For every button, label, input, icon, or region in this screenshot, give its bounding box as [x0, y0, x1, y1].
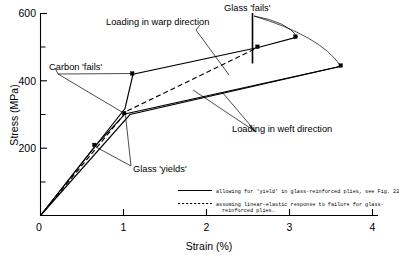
annotation-carbon-fails: Carbon 'fails' — [49, 62, 102, 72]
x-axis — [41, 209, 379, 216]
leader-loading-warp — [196, 25, 229, 75]
legend-label-solid: allowing for 'yield' in glass-reinforced… — [216, 189, 399, 195]
x-tick-label-4: 4 — [370, 221, 376, 233]
leader-glass-fails — [253, 13, 341, 65]
x-tick-label-1: 1 — [121, 221, 127, 233]
y-tick-label-200: 200 — [18, 142, 36, 154]
annotation-glass-yields: Glass 'yields' — [133, 164, 187, 174]
x-tick-label-2: 2 — [204, 221, 210, 233]
x-tick-label-3: 3 — [287, 221, 293, 233]
y-axis-title: Stress (MPa) — [8, 84, 20, 145]
legend-label-dashed-line2: reinforced plies. — [222, 208, 275, 214]
annotation-loading-warp: Loading in warp direction — [106, 17, 209, 27]
marker-glass-yields-weft — [93, 143, 97, 147]
marker-glass-fails-warp — [256, 45, 260, 49]
annotation-loading-weft: Loading in weft direction — [232, 124, 332, 134]
y-tick-label-0: 0 — [36, 221, 42, 233]
leader-carbon-fails — [55, 68, 132, 114]
stress-strain-figure: 600 400 200 0 1 2 3 4 Stress (MPa) Strai… — [0, 0, 399, 255]
y-tick-label-600: 600 — [18, 7, 36, 19]
legend: allowing for 'yield' in glass-reinforced… — [178, 189, 399, 214]
x-axis-title: Strain (%) — [186, 240, 233, 252]
chart-canvas: 600 400 200 0 1 2 3 4 Stress (MPa) Strai… — [0, 0, 399, 255]
y-tick-label-400: 400 — [18, 75, 36, 87]
y-axis — [41, 13, 48, 216]
annotation-glass-fails: Glass 'fails' — [224, 3, 271, 13]
